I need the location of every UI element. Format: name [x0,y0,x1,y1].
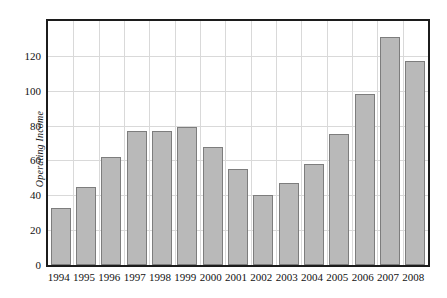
x-tick-label: 2004 [301,271,323,283]
bar [203,147,223,266]
y-tick-label: 100 [4,86,46,97]
bar [405,61,425,265]
bar [101,157,121,265]
gridline-vertical [276,21,277,265]
bar [76,187,96,265]
bar [228,169,248,265]
bar [51,208,71,266]
gridline-vertical [200,21,201,265]
x-tick-label: 1998 [149,271,171,283]
x-tick-label: 1996 [98,271,120,283]
x-tick-label: 1994 [48,271,70,283]
y-tick-label: 20 [4,225,46,236]
x-tick-label: 2001 [225,271,247,283]
x-tick-label: 2002 [250,271,272,283]
x-tick-label: 2000 [200,271,222,283]
gridline-vertical [403,21,404,265]
bar [152,131,172,265]
x-tick-label: 2005 [326,271,348,283]
x-axis-tick-labels: 1994199519961997199819992000200120022003… [46,271,430,289]
gridline-vertical [225,21,226,265]
y-tick-label: 40 [4,190,46,201]
gridline-vertical [377,21,378,265]
x-tick-label: 2008 [402,271,424,283]
bar-chart-figure: Operating Income 020406080100120 1994199… [0,0,447,298]
y-tick-label: 80 [4,121,46,132]
plot-inner [48,21,428,265]
bar [253,195,273,265]
y-tick-label: 0 [4,260,46,271]
bar [304,164,324,265]
bar [177,127,197,265]
x-tick-label: 2007 [377,271,399,283]
bar [329,134,349,265]
bar [355,94,375,265]
x-tick-label: 1999 [174,271,196,283]
gridline-vertical [301,21,302,265]
bar [380,37,400,265]
x-tick-label: 1995 [73,271,95,283]
gridline-vertical [175,21,176,265]
gridline-vertical [352,21,353,265]
bar [279,183,299,265]
x-tick-label: 2003 [276,271,298,283]
gridline-horizontal [48,91,428,92]
y-axis-tick-labels: 020406080100120 [0,19,46,267]
x-tick-label: 2006 [352,271,374,283]
bar [127,131,147,265]
y-tick-label: 60 [4,155,46,166]
gridline-vertical [251,21,252,265]
gridline-vertical [327,21,328,265]
x-tick-label: 1997 [124,271,146,283]
gridline-vertical [124,21,125,265]
gridline-vertical [149,21,150,265]
gridline-vertical [99,21,100,265]
y-tick-label: 120 [4,51,46,62]
plot-area [46,19,430,267]
gridline-vertical [73,21,74,265]
gridline-horizontal [48,56,428,57]
